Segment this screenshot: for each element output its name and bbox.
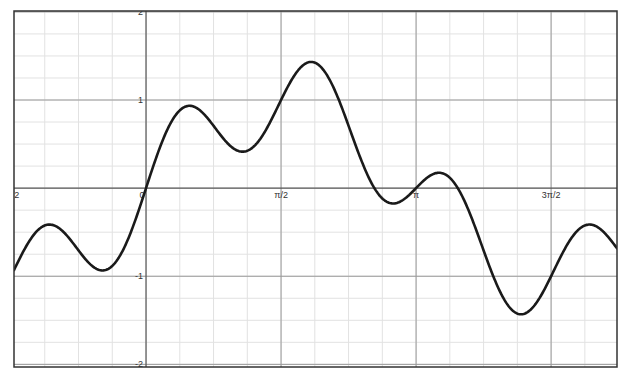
y-tick-label: 2 bbox=[138, 7, 143, 17]
y-tick-label: 1 bbox=[138, 95, 143, 105]
y-tick-label: -1 bbox=[135, 271, 143, 281]
y-tick-label: -2 bbox=[135, 359, 143, 369]
x-tick-label: 3π/2 bbox=[542, 190, 561, 200]
x-tick-label: -π/2 bbox=[3, 190, 20, 200]
x-tick-label: π/2 bbox=[274, 190, 288, 200]
function-plot: -π/20π/2π3π/221-1-2 bbox=[0, 0, 630, 377]
